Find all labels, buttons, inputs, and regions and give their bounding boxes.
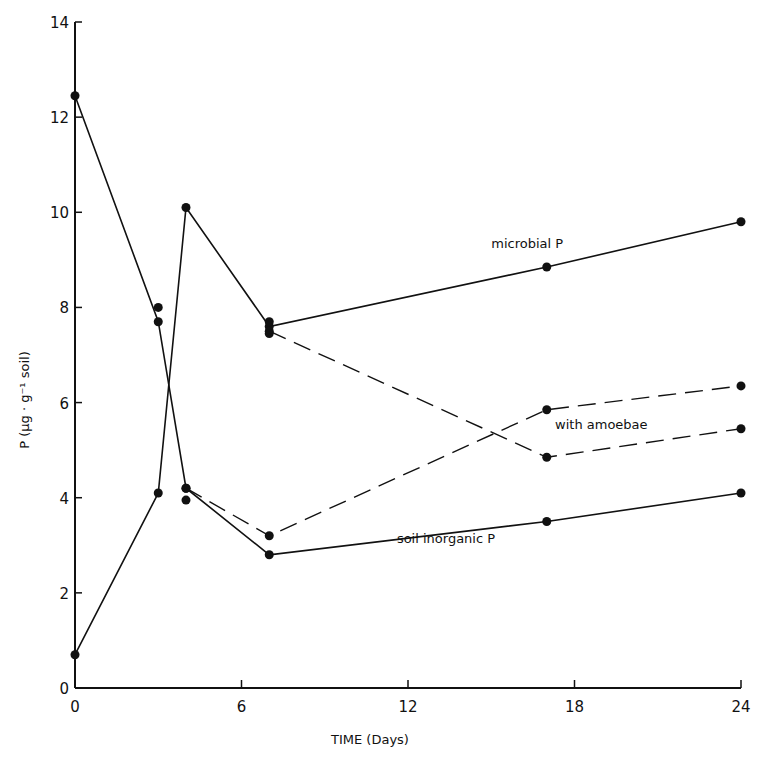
annotations: microbial Pwith amoebaesoil inorganic P bbox=[397, 236, 648, 546]
data-point bbox=[71, 650, 80, 659]
data-point bbox=[265, 531, 274, 540]
x-tick-label: 24 bbox=[731, 698, 750, 716]
x-axis-title: TIME (Days) bbox=[330, 732, 409, 747]
data-point bbox=[154, 317, 163, 326]
data-point bbox=[265, 329, 274, 338]
data-point bbox=[542, 517, 551, 526]
x-tick-label: 12 bbox=[398, 698, 417, 716]
annotation-label: with amoebae bbox=[555, 417, 648, 432]
y-axis-title: P (µg · g⁻¹ soil) bbox=[17, 351, 32, 448]
data-point bbox=[542, 405, 551, 414]
data-point bbox=[154, 488, 163, 497]
x-tick-label: 6 bbox=[237, 698, 247, 716]
data-point bbox=[265, 550, 274, 559]
annotation-label: microbial P bbox=[491, 236, 563, 251]
data-point bbox=[182, 484, 191, 493]
data-point bbox=[737, 424, 746, 433]
y-tick-label: 0 bbox=[59, 680, 69, 698]
data-point bbox=[71, 91, 80, 100]
series-line bbox=[186, 386, 741, 536]
series-lines bbox=[75, 96, 741, 655]
data-points bbox=[71, 91, 746, 659]
y-tick-label: 4 bbox=[59, 490, 69, 508]
data-point bbox=[542, 453, 551, 462]
y-tick-label: 14 bbox=[50, 14, 69, 32]
data-point bbox=[542, 262, 551, 271]
data-point bbox=[737, 381, 746, 390]
data-point bbox=[182, 203, 191, 212]
y-tick-label: 2 bbox=[59, 585, 69, 603]
data-point bbox=[154, 303, 163, 312]
line-chart: 0246810121406121824 microbial Pwith amoe… bbox=[0, 0, 765, 760]
x-tick-label: 18 bbox=[565, 698, 584, 716]
y-tick-label: 10 bbox=[50, 204, 69, 222]
x-tick-label: 0 bbox=[70, 698, 80, 716]
y-tick-label: 8 bbox=[59, 299, 69, 317]
data-point bbox=[182, 496, 191, 505]
annotation-label: soil inorganic P bbox=[397, 531, 495, 546]
data-point bbox=[737, 488, 746, 497]
axes: 0246810121406121824 bbox=[50, 14, 751, 716]
data-point bbox=[265, 317, 274, 326]
y-tick-label: 12 bbox=[50, 109, 69, 127]
y-tick-label: 6 bbox=[59, 395, 69, 413]
data-point bbox=[737, 217, 746, 226]
